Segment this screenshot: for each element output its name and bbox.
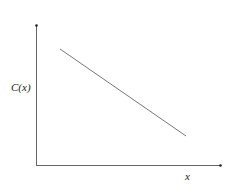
cost-function-line [60,49,186,136]
graph-canvas [0,0,241,195]
x-axis-arrow-icon [219,164,222,167]
y-axis-arrow-icon [35,24,38,27]
y-axis-label: C(x) [11,81,31,93]
x-axis-label: x [185,170,190,182]
